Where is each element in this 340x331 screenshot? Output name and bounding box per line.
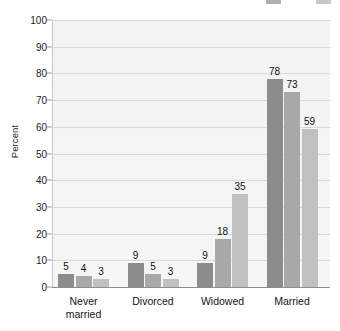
bar: [58, 274, 74, 287]
y-axis-tick-label: 50: [7, 148, 47, 159]
y-axis-tick-label: 0: [7, 282, 47, 293]
y-axis-tick-label: 30: [7, 201, 47, 212]
bar-value-label: 18: [210, 226, 236, 237]
y-axis-tick-label: 40: [7, 175, 47, 186]
y-axis-tick-mark: [47, 260, 52, 261]
y-axis-tick-mark: [47, 126, 52, 127]
bar: [232, 194, 248, 287]
gridline: [52, 20, 330, 21]
y-axis-tick-label: 20: [7, 228, 47, 239]
bar-value-label: 3: [88, 266, 114, 277]
y-axis-tick-label: 100: [7, 15, 47, 26]
y-axis-tick-mark: [47, 46, 52, 47]
bar-chart: Percent Men 0102030405060708090100543Nev…: [0, 0, 340, 331]
y-axis-tick-label: 70: [7, 95, 47, 106]
y-axis-tick-mark: [47, 206, 52, 207]
gridline: [52, 47, 330, 48]
y-axis-tick-mark: [47, 100, 52, 101]
bar-value-label: 9: [192, 250, 218, 261]
y-axis-tick-mark: [47, 20, 52, 21]
bar: [76, 276, 92, 287]
bar-value-label: 35: [227, 181, 253, 192]
bar: [93, 279, 109, 287]
bar: [302, 129, 318, 287]
legend-swatch-1-icon: [266, 0, 281, 4]
bar: [163, 279, 179, 287]
legend: [0, 0, 340, 7]
y-axis-tick-mark: [47, 153, 52, 154]
y-axis-tick-label: 10: [7, 255, 47, 266]
y-axis-tick-label: 90: [7, 41, 47, 52]
legend-swatch-2-icon: [316, 0, 331, 4]
bar: [267, 79, 283, 287]
y-axis-tick-mark: [47, 233, 52, 234]
bar-value-label: 73: [279, 79, 305, 90]
y-axis-tick-mark: [47, 287, 52, 288]
y-axis-tick-mark: [47, 180, 52, 181]
x-axis-line: [52, 287, 330, 288]
x-axis-category-label: Married: [249, 295, 335, 308]
bar-value-label: 3: [158, 266, 184, 277]
bar-value-label: 59: [297, 116, 323, 127]
bar-value-label: 9: [123, 250, 149, 261]
gridline: [52, 73, 330, 74]
bar: [215, 239, 231, 287]
plot-area: [52, 20, 330, 288]
bar-value-label: 78: [262, 66, 288, 77]
y-axis-tick-label: 80: [7, 68, 47, 79]
bar: [197, 263, 213, 287]
y-axis-tick-mark: [47, 73, 52, 74]
y-axis-tick-label: 60: [7, 121, 47, 132]
